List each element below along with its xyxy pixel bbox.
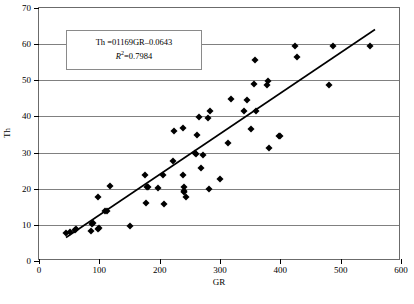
y-axis-tick [34,153,39,154]
data-point [330,42,337,49]
x-axis-tick [220,259,221,264]
data-point [325,81,332,88]
data-point [366,42,373,49]
data-point [243,96,250,103]
x-axis-tick [280,259,281,264]
data-point [225,140,232,147]
data-point [204,114,211,121]
y-axis-tick [34,225,39,226]
r-squared-number: =0.7984 [124,51,152,61]
x-axis-tick [99,259,100,264]
data-point [142,171,149,178]
data-point [126,222,133,229]
data-point [95,194,102,201]
regression-equation: Th =01169GR–0.0643 [67,36,201,49]
x-axis-tick-label: 100 [93,266,107,275]
data-point [196,114,203,121]
data-point [293,54,300,61]
x-axis-tick-label: 400 [274,266,288,275]
data-point [171,127,178,134]
data-point [248,126,255,133]
y-axis-title: Th [2,128,12,138]
y-axis-tick-label: 0 [27,257,32,266]
y-axis-tick-label: 40 [22,112,31,121]
y-axis-tick-label: 50 [22,76,31,85]
y-axis-tick-label: 70 [22,4,31,13]
data-point [253,107,260,114]
data-point [169,157,176,164]
x-axis-tick [160,259,161,264]
y-axis-tick-label: 10 [22,220,31,229]
gridline [39,153,399,154]
data-point [143,200,150,207]
data-point [182,194,189,201]
x-axis-title: GR [213,277,226,287]
x-axis-tick-label: 500 [334,266,348,275]
data-point [197,164,204,171]
equation-annotation-box: Th =01169GR–0.0643 R2=0.7984 [66,30,202,70]
data-point [227,96,234,103]
data-point [277,132,284,139]
plot-area: 010203040506070 0100200300400500600 Th =… [38,7,400,260]
x-axis-tick [401,259,402,264]
y-axis-tick [34,189,39,190]
data-point [251,56,258,63]
data-point [179,124,186,131]
data-point [241,107,248,114]
y-axis-tick-label: 60 [22,40,31,49]
x-axis-tick-label: 600 [394,266,408,275]
y-axis-tick-label: 20 [22,184,31,193]
x-axis-tick-label: 0 [37,266,42,275]
r-squared-value: R2=0.7984 [67,49,201,63]
x-axis-tick-label: 200 [153,266,167,275]
data-point [155,184,162,191]
y-axis-tick [34,44,39,45]
data-point [73,225,80,232]
x-axis-tick [341,259,342,264]
y-axis-tick [34,80,39,81]
gridline [39,189,399,190]
data-point [265,77,272,84]
data-point [194,131,201,138]
data-point [159,171,166,178]
figure-container: 010203040506070 0100200300400500600 Th =… [0,0,414,304]
data-point [216,175,223,182]
data-point [205,186,212,193]
y-axis-tick-label: 30 [22,148,31,157]
data-point [180,171,187,178]
x-axis-tick-label: 300 [213,266,227,275]
y-axis-tick [34,116,39,117]
data-point [266,144,273,151]
x-axis-tick [39,259,40,264]
y-axis-tick [34,8,39,9]
gridline [39,80,399,81]
data-point [161,200,168,207]
data-point [250,81,257,88]
gridline [39,116,399,117]
